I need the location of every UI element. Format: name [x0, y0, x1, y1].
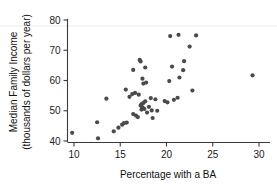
- data-point: [168, 34, 172, 38]
- data-point: [112, 129, 116, 133]
- x-tick-label: 10: [68, 149, 80, 160]
- y-tick-label: 60: [49, 75, 61, 86]
- data-point: [170, 64, 174, 68]
- data-point: [125, 120, 129, 124]
- y-tick-label: 40: [49, 136, 61, 147]
- data-point: [139, 59, 143, 63]
- data-point: [143, 65, 147, 69]
- data-point: [176, 33, 180, 37]
- data-point: [153, 97, 157, 101]
- data-point: [177, 75, 181, 79]
- data-point: [188, 45, 192, 49]
- data-point: [140, 77, 144, 81]
- data-point: [95, 120, 99, 124]
- y-axis-title-line2: (thousands of dollars per year): [21, 14, 32, 150]
- x-tick-label: 25: [207, 149, 219, 160]
- data-point: [181, 68, 185, 72]
- data-point: [143, 99, 147, 103]
- data-point: [136, 115, 140, 119]
- data-point: [147, 105, 151, 109]
- data-point: [165, 100, 169, 104]
- plot-canvas: 4050607080 1015202530 Percentage with a …: [0, 0, 277, 189]
- data-point: [194, 33, 198, 37]
- data-point: [250, 73, 254, 77]
- data-point: [155, 109, 159, 113]
- y-axis-ticks: 4050607080: [49, 15, 67, 147]
- data-point: [190, 88, 194, 92]
- data-point: [150, 108, 154, 112]
- scatter-plot-figure: 4050607080 1015202530 Percentage with a …: [0, 0, 277, 189]
- data-point: [145, 110, 149, 114]
- data-point: [176, 96, 180, 100]
- data-point: [124, 87, 128, 91]
- y-axis-title-line1: Median Family Income: [8, 31, 19, 132]
- data-point: [172, 98, 176, 102]
- data-point: [167, 79, 171, 83]
- data-point: [137, 93, 141, 97]
- data-point: [70, 131, 74, 135]
- data-points-layer: [70, 33, 255, 141]
- data-point: [142, 107, 146, 111]
- x-axis-ticks: 1015202530: [68, 143, 265, 160]
- data-point: [151, 116, 155, 120]
- y-tick-label: 50: [49, 105, 61, 116]
- data-point: [104, 97, 108, 101]
- y-tick-label: 80: [49, 15, 61, 26]
- data-point: [182, 59, 186, 63]
- x-tick-label: 20: [161, 149, 173, 160]
- data-point: [133, 91, 137, 95]
- data-point: [116, 126, 120, 130]
- x-tick-label: 30: [253, 149, 265, 160]
- y-tick-label: 70: [49, 45, 61, 56]
- data-point: [96, 136, 100, 140]
- data-point: [131, 68, 135, 72]
- data-point: [149, 96, 153, 100]
- x-tick-label: 15: [115, 149, 127, 160]
- data-point: [144, 81, 148, 85]
- x-axis-title: Percentage with a BA: [120, 169, 216, 180]
